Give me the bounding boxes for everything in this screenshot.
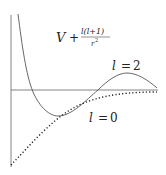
svg-text:0: 0 xyxy=(110,111,118,125)
svg-text:=: = xyxy=(98,111,108,125)
svg-text:l: l xyxy=(89,111,93,125)
label-l2: l = 2 xyxy=(112,59,141,73)
svg-text:l: l xyxy=(112,59,116,73)
svg-text:2: 2 xyxy=(95,37,98,43)
label-l0: l = 0 xyxy=(89,111,118,125)
svg-text:2: 2 xyxy=(133,59,141,73)
effective-potential-diagram: V + l(l+1) r 2 l = 2 l = 0 xyxy=(0,0,166,175)
svg-text:V: V xyxy=(56,30,67,45)
svg-text:=: = xyxy=(121,59,131,73)
svg-text:l(l+1): l(l+1) xyxy=(81,27,104,36)
svg-text:+: + xyxy=(69,31,79,45)
formula-label: V + l(l+1) r 2 xyxy=(56,27,110,48)
